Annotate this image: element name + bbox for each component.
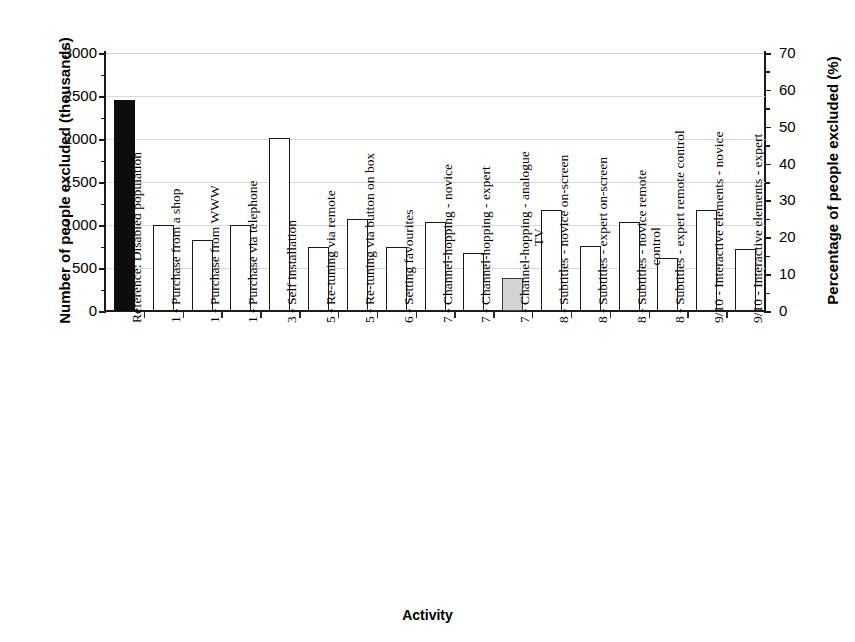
y-axis-left-tick-label: 3000 — [41, 45, 97, 60]
x-axis-category-label: 5 - Re-tuning via remote — [324, 190, 338, 323]
y-axis-right-tick-label: 0 — [779, 303, 823, 318]
x-axis-category-label: 3 - Self installation — [285, 220, 299, 323]
y-axis-left-tick-label: 500 — [41, 260, 97, 275]
axis-labels-layer: 050010001500200025003000010203040506070R… — [0, 0, 855, 642]
x-axis-category-tick — [687, 311, 688, 318]
y-axis-left-tick-label: 1000 — [41, 217, 97, 232]
x-axis-category-label: 1 - Purchase from a shop — [169, 188, 183, 323]
x-axis-category-label: 8 - Subtitles - expert remote control — [673, 130, 687, 323]
x-axis-category-tick — [726, 311, 727, 318]
y-axis-right-tick-label: 10 — [779, 266, 823, 281]
x-axis-category-label: 6 - Setting favourites — [402, 209, 416, 323]
x-axis-category-label: 7 - Channel-hopping - analogueTV — [518, 151, 546, 323]
x-axis-category-label: 7 - Channel-hopping - expert — [479, 166, 493, 323]
y-axis-right-tick-label: 40 — [779, 156, 823, 171]
x-axis-category-tick — [338, 311, 339, 318]
chart-figure: Number of people excluded (thousands) Pe… — [0, 0, 855, 642]
y-axis-left-tick-label: 1500 — [41, 174, 97, 189]
x-axis-category-label: 8 - Subtitles - novice on-screen — [557, 155, 571, 323]
x-axis-category-tick — [299, 311, 300, 318]
x-axis-category-label: 8 - Subtitles - expert on-screen — [596, 157, 610, 323]
x-axis-category-tick — [493, 311, 494, 318]
x-axis-category-label: 5 - Re-tuning via button on box — [363, 153, 377, 323]
x-axis-category-label: 8 - Subtitles - novice remotecontrol — [635, 170, 663, 323]
y-axis-left-tick-label: 0 — [41, 303, 97, 318]
x-axis-category-tick — [571, 311, 572, 318]
y-axis-right-tick-label: 60 — [779, 82, 823, 97]
x-axis-category-label: Reference: Disabled population — [130, 152, 144, 323]
x-axis-category-label: 7 - Channel-hopping - novice — [441, 164, 455, 323]
x-axis-category-label: 9/10 - Interactive elements - novice — [712, 131, 726, 323]
y-axis-left-tick-label: 2000 — [41, 131, 97, 146]
x-axis-category-tick — [260, 311, 261, 318]
y-axis-right-tick-label: 30 — [779, 192, 823, 207]
x-axis-category-label: 9/10 - Interactive elements - expert — [751, 134, 765, 323]
y-axis-right-tick-label: 50 — [779, 119, 823, 134]
x-axis-category-label: 1 - Purchase via telephone — [246, 181, 260, 323]
x-axis-category-label: 1 - Purchase from WWW — [208, 185, 222, 323]
y-axis-right-tick-label: 70 — [779, 45, 823, 60]
x-axis-category-tick — [144, 311, 145, 318]
y-axis-right-tick-label: 20 — [779, 229, 823, 244]
y-axis-left-tick-label: 2500 — [41, 88, 97, 103]
